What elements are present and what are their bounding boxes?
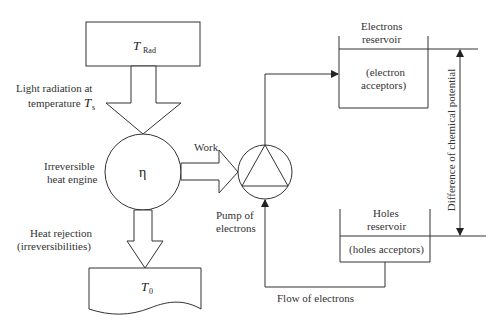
electrons-reservoir-content-2: acceptors) <box>361 79 407 92</box>
holes-reservoir-title-1: Holes <box>373 207 399 219</box>
light-temperature-subscript: s <box>92 103 95 112</box>
flow-of-electrons-label: Flow of electrons <box>277 292 354 304</box>
electrons-reservoir-title-2: reservoir <box>362 33 401 45</box>
svg-text:Rad: Rad <box>143 46 156 55</box>
holes-reservoir-title-2: reservoir <box>367 220 406 232</box>
source-box: T Rad <box>86 22 200 66</box>
pump-label-1: Pump of <box>216 209 254 221</box>
electrons-reservoir-content-1: (electron <box>366 66 406 79</box>
light-temperature-symbol: T <box>84 95 92 110</box>
svg-text:0: 0 <box>149 287 153 296</box>
sink-box: T 0 <box>89 268 201 314</box>
chemical-potential-label: Difference of chemical potential <box>445 69 457 211</box>
heat-rejection-arrow <box>127 210 163 268</box>
light-radiation-arrow <box>106 66 181 134</box>
engine-label-2: heat engine <box>47 173 98 185</box>
svg-text:T: T <box>133 38 141 53</box>
electron-pump <box>238 145 292 199</box>
diagram-canvas: T Rad Light radiation at temperature T s… <box>0 0 499 328</box>
electrons-reservoir <box>339 36 478 108</box>
work-arrow <box>181 150 238 193</box>
svg-text:T: T <box>141 279 149 294</box>
engine-label-1: Irreversible <box>44 160 95 172</box>
work-label: Work <box>194 141 219 153</box>
electrons-reservoir-title-1: Electrons <box>361 20 403 32</box>
heat-engine: η <box>105 134 181 210</box>
light-temperature-label: temperature <box>28 97 81 109</box>
heat-rejection-label-2: (irreversibilities) <box>17 240 91 253</box>
flow-to-electrons-reservoir <box>265 74 338 145</box>
pump-label-2: electrons <box>216 222 256 234</box>
holes-reservoir-content: (holes acceptors) <box>349 243 424 256</box>
light-radiation-label: Light radiation at <box>16 82 92 94</box>
efficiency-symbol: η <box>139 165 146 180</box>
heat-rejection-label-1: Heat rejection <box>30 227 92 239</box>
